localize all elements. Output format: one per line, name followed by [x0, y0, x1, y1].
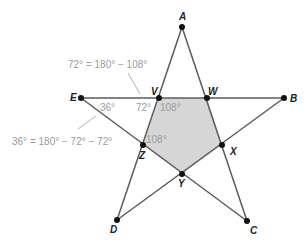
point-y: [179, 171, 185, 177]
angle-label: 36°: [100, 102, 115, 113]
point-e: [78, 95, 84, 101]
leader-line: [78, 116, 96, 129]
point-d: [114, 217, 120, 223]
angle-equation: 72° = 180° − 108°: [68, 59, 147, 70]
point-a: [179, 24, 185, 30]
point-x: [219, 142, 225, 148]
angle-label: 72°: [136, 102, 151, 113]
vertex-label-w: W: [208, 86, 219, 97]
leader-line: [128, 73, 140, 94]
angle-label: 108°: [160, 102, 181, 113]
vertex-label-y: Y: [178, 178, 186, 189]
annotation-leader-lines: [78, 73, 140, 129]
point-b: [281, 95, 287, 101]
vertex-label-x: X: [229, 146, 238, 157]
vertex-label-a: A: [178, 11, 186, 22]
vertex-label-e: E: [70, 92, 77, 103]
vertex-label-c: C: [250, 225, 258, 236]
star-pentagon-diagram: ABCDEVWXYZ 36°72°108°108° 72° = 180° − 1…: [0, 0, 305, 241]
angle-annotations: 72° = 180° − 108°36° = 180° − 72° − 72°: [12, 59, 147, 147]
point-c: [244, 218, 250, 224]
vertex-label-d: D: [110, 224, 117, 235]
angle-label: 108°: [146, 134, 167, 145]
angle-equation: 36° = 180° − 72° − 72°: [12, 136, 112, 147]
vertex-label-b: B: [290, 93, 297, 104]
vertex-label-z: Z: [138, 150, 146, 161]
